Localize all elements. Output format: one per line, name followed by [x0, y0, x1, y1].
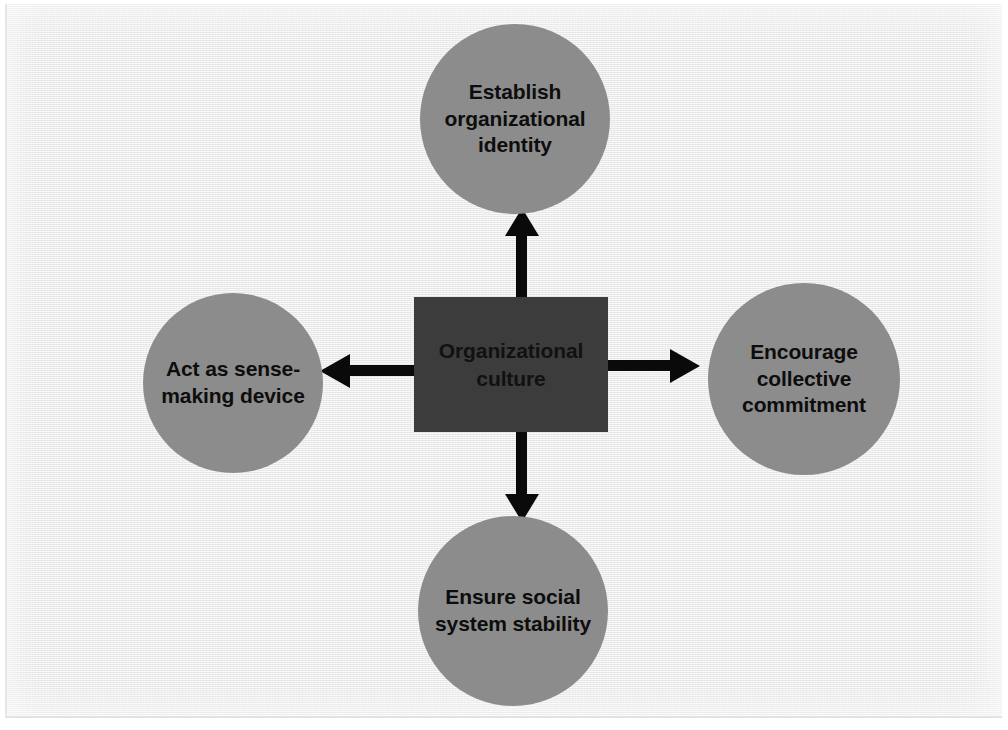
node-encourage-collective-commitment: Encourage collective commitment: [708, 283, 900, 475]
arrow-right: [606, 349, 700, 383]
node-center-label: Organizational culture: [422, 337, 600, 392]
node-right-label: Encourage collective commitment: [714, 339, 894, 420]
arrow-shaft-right: [606, 360, 672, 371]
node-act-as-sense-making-device: Act as sense-making device: [143, 293, 323, 473]
node-left-label: Act as sense-making device: [149, 356, 317, 410]
arrow-left: [320, 354, 416, 388]
node-establish-organizational-identity: Establish organizational identity: [420, 24, 610, 214]
arrow-shaft-left: [348, 365, 416, 376]
node-organizational-culture: Organizational culture: [414, 297, 608, 432]
diagram-canvas: Establish organizational identity Encour…: [0, 0, 1008, 730]
arrow-down: [505, 430, 539, 522]
node-top-label: Establish organizational identity: [426, 79, 604, 160]
arrowhead-right-icon: [670, 349, 700, 383]
arrow-shaft-down: [516, 430, 527, 496]
page-edge-bottom: [6, 716, 1002, 718]
page-edge-left: [5, 4, 7, 718]
arrow-shaft-up: [516, 234, 527, 300]
arrow-up: [505, 208, 539, 300]
node-bottom-label: Ensure social system stability: [424, 584, 602, 638]
node-ensure-social-system-stability: Ensure social system stability: [418, 516, 608, 706]
arrowhead-left-icon: [320, 354, 350, 388]
